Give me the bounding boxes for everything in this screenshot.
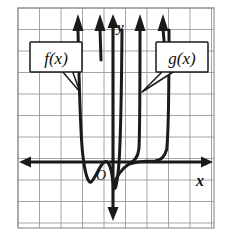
coordinate-plane-svg: y x O f(x) g(x) bbox=[0, 0, 232, 242]
y-axis-label: y bbox=[115, 19, 124, 35]
origin-label: O bbox=[96, 168, 106, 183]
f-callout-label: f(x) bbox=[44, 49, 68, 68]
figure-background bbox=[0, 0, 232, 242]
graph-figure: y x O f(x) g(x) bbox=[0, 0, 232, 242]
x-axis-label: x bbox=[195, 172, 204, 189]
g-callout-label: g(x) bbox=[168, 49, 196, 68]
